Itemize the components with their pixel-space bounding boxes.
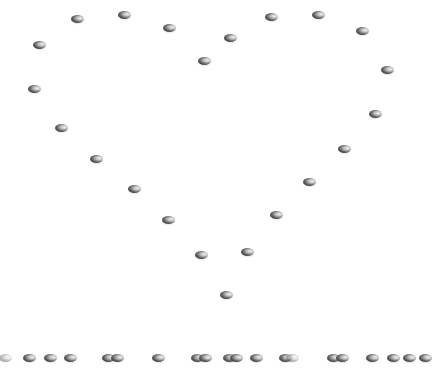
row-dot (44, 354, 57, 362)
heart-dot (118, 11, 131, 19)
heart-dot (369, 110, 382, 118)
row-dot (403, 354, 416, 362)
heart-dot (128, 185, 141, 193)
row-dot (250, 354, 263, 362)
heart-dot (356, 27, 369, 35)
heart-dot (28, 85, 41, 93)
heart-dot (55, 124, 68, 132)
heart-dot (33, 41, 46, 49)
row-dot (419, 354, 432, 362)
heart-dot (163, 24, 176, 32)
heart-dot (195, 251, 208, 259)
heart-dot (270, 211, 283, 219)
row-dot (23, 354, 36, 362)
row-dot (336, 354, 349, 362)
heart-dot (224, 34, 237, 42)
row-dot (286, 354, 299, 362)
heart-dot (312, 11, 325, 19)
row-dot (64, 354, 77, 362)
row-dot (0, 354, 12, 362)
row-dot (152, 354, 165, 362)
heart-dot (71, 15, 84, 23)
heart-dot (265, 13, 278, 21)
heart-dot (303, 178, 316, 186)
heart-dot (198, 57, 211, 65)
heart-dot (162, 216, 175, 224)
heart-dot (90, 155, 103, 163)
heart-dot (381, 66, 394, 74)
heart-dot (220, 291, 233, 299)
dot-canvas (0, 0, 443, 372)
row-dot (387, 354, 400, 362)
row-dot (111, 354, 124, 362)
heart-dot (338, 145, 351, 153)
heart-dot (241, 248, 254, 256)
row-dot (230, 354, 243, 362)
row-dot (199, 354, 212, 362)
row-dot (366, 354, 379, 362)
